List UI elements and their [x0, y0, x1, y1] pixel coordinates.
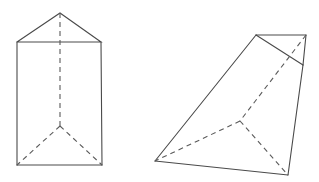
prism-hidden-bottom-left — [17, 126, 60, 165]
frustum-hidden-back-edge — [240, 35, 306, 121]
prism-right-edge — [101, 42, 102, 165]
prism-top-face — [17, 13, 101, 42]
frustum-top-right-edge — [303, 35, 306, 65]
frustum-bottom-front-edge — [155, 161, 288, 175]
frustum-left-edge — [155, 35, 256, 161]
geometry-diagram — [0, 0, 319, 182]
frustum-right-edge — [288, 65, 303, 175]
frustum-top-front-edge — [256, 35, 303, 65]
frustum-hidden-bottom-right — [240, 121, 288, 175]
truncated-pyramid — [155, 35, 306, 175]
triangular-prism — [17, 13, 102, 165]
frustum-hidden-bottom-left — [155, 121, 240, 161]
prism-hidden-bottom-right — [60, 126, 102, 165]
